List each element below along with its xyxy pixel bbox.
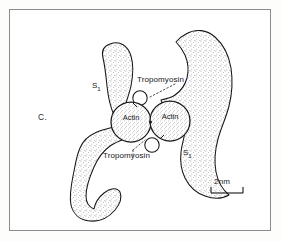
- s1-label-right: S1: [183, 148, 192, 159]
- tropomyosin-label-top: Tropomyosin: [137, 75, 184, 84]
- figure-panel: C. Tropomyosin Tropomyosin S1 S1 Actin A…: [0, 0, 282, 242]
- panel-label: C.: [38, 112, 47, 122]
- s1-label-left-subscript: 1: [97, 86, 100, 92]
- scale-bar-label: 2nm: [214, 177, 230, 186]
- s1-label-right-subscript: 1: [188, 153, 191, 159]
- leader-line-tropomyosin-top: [150, 84, 175, 97]
- actin-monomer-left: [111, 102, 151, 142]
- s1-label-left: S1: [92, 81, 101, 92]
- tropomyosin-label-bottom: Tropomyosin: [103, 151, 150, 160]
- actin-label-left: Actin: [113, 113, 149, 122]
- actin-monomer-right: [150, 101, 190, 141]
- actin-label-right: Actin: [152, 112, 188, 121]
